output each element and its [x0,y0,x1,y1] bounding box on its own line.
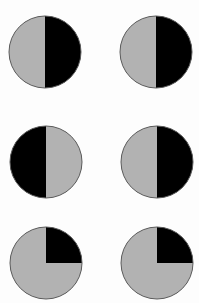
circle-2 [120,16,192,88]
circle-fraction-diagram [0,0,199,303]
circle-black-region [156,16,192,88]
diagram-svg [0,0,199,303]
circle-black-region [45,16,81,88]
circle-black-region [10,126,46,198]
circle-1 [9,16,81,88]
circle-3 [10,126,82,198]
circle-6 [121,227,193,299]
circle-5 [10,227,82,299]
circle-black-region [157,126,193,198]
circle-4 [121,126,193,198]
